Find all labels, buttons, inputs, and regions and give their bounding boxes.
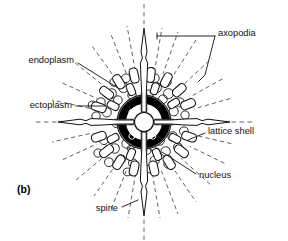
label-lattice-shell: lattice shell — [208, 126, 254, 136]
label-ectoplasm: ectoplasm — [30, 100, 73, 110]
leader-axopodia-arm — [198, 36, 215, 82]
leader-endoplasm — [78, 63, 118, 88]
spine-left — [58, 119, 134, 126]
panel-label: (b) — [17, 183, 30, 195]
label-nucleus: nucleus — [199, 170, 231, 180]
label-spine: spine — [96, 203, 118, 213]
spine-bottom — [140, 132, 147, 216]
spine-right — [154, 119, 230, 126]
figure-panel: axopodia endoplasm ectoplasm lattice she… — [0, 0, 288, 241]
label-endoplasm: endoplasm — [29, 55, 75, 65]
label-axopodia: axopodia — [218, 28, 257, 38]
nucleus-circle — [134, 112, 153, 131]
spine-top — [140, 28, 147, 112]
radiolarian-diagram: axopodia endoplasm ectoplasm lattice she… — [0, 0, 288, 241]
